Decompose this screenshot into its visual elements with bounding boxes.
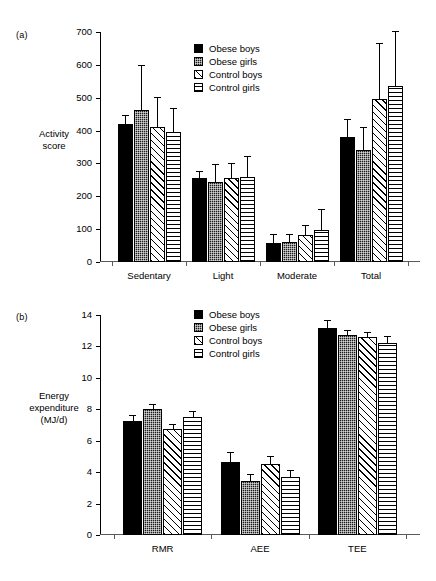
error-bar-cap — [247, 474, 254, 475]
error-bar-cap — [149, 404, 156, 405]
error-bar-stem — [367, 333, 368, 337]
bar-light-obese-boys — [192, 178, 207, 262]
panel-a-tag: (a) — [16, 30, 28, 40]
error-bar-stem — [173, 109, 174, 132]
error-bar-cap — [364, 332, 371, 333]
bar-total-obese-girls — [356, 150, 371, 262]
bar-sedentary-obese-girls — [134, 110, 149, 262]
x-category-label-total: Total — [321, 270, 421, 281]
error-bar-cap — [344, 119, 351, 120]
legend-item-obese-girls: Obese girls — [194, 321, 262, 333]
panel-b-tag: (b) — [16, 312, 28, 322]
y-tick — [96, 472, 100, 473]
bar-total-control-boys — [372, 99, 387, 262]
error-bar-cap — [227, 452, 234, 453]
diagonal-hatch-swatch-icon — [194, 336, 203, 345]
dense-dots-swatch-icon — [194, 323, 203, 332]
x-tick — [408, 262, 409, 266]
y-tick — [96, 229, 100, 230]
bar-moderate-obese-boys — [266, 243, 281, 262]
solid-black-swatch-icon — [194, 310, 203, 319]
error-bar-cap — [129, 415, 136, 416]
y-axis-title-line: (MJ/d) — [8, 414, 100, 426]
x-category-label-aee: AEE — [210, 543, 310, 554]
bar-light-obese-girls — [208, 182, 223, 262]
bar-rmr-control-girls — [183, 417, 202, 535]
legend-item-control-boys: Control boys — [194, 334, 262, 346]
bar-tee-control-boys — [358, 337, 377, 535]
error-bar-cap — [324, 320, 331, 321]
error-bar-cap — [267, 456, 274, 457]
x-tick — [186, 262, 187, 266]
y-tick-label: 6 — [52, 436, 92, 446]
error-bar-stem — [289, 235, 290, 242]
y-tick — [96, 504, 100, 505]
y-tick — [96, 409, 100, 410]
error-bar-cap — [360, 127, 367, 128]
y-tick — [96, 315, 100, 316]
y-tick — [96, 535, 100, 536]
error-bar-cap — [169, 424, 176, 425]
error-bar-cap — [318, 209, 325, 210]
error-bar-stem — [193, 412, 194, 418]
error-bar-stem — [141, 66, 142, 110]
y-tick — [96, 346, 100, 347]
legend-item-control-boys: Control boys — [194, 68, 262, 80]
bar-tee-obese-boys — [318, 328, 337, 535]
y-tick — [96, 378, 100, 379]
legend-item-label: Control girls — [209, 348, 260, 359]
horizontal-lines-swatch-icon — [194, 83, 203, 92]
bar-light-control-girls — [240, 177, 255, 262]
legend-item-obese-boys: Obese boys — [194, 42, 262, 54]
error-bar-stem — [395, 32, 396, 86]
error-bar-stem — [231, 164, 232, 178]
legend-item-label: Obese boys — [209, 43, 260, 54]
panel-a: (a) Activityscore 0100200300400500600700… — [0, 0, 436, 290]
y-tick — [96, 163, 100, 164]
x-tick — [309, 535, 310, 539]
error-bar-stem — [321, 210, 322, 230]
horizontal-lines-swatch-icon — [194, 349, 203, 358]
error-bar-cap — [344, 330, 351, 331]
legend-item-control-girls: Control girls — [194, 347, 262, 359]
y-tick — [96, 196, 100, 197]
panel-b: (b) Energyexpenditure(MJ/d) 02468101214R… — [0, 290, 436, 581]
error-bar-stem — [153, 405, 154, 409]
bar-rmr-control-boys — [163, 429, 182, 535]
error-bar-stem — [199, 172, 200, 179]
bar-sedentary-control-girls — [166, 132, 181, 262]
legend-item-label: Control boys — [209, 69, 262, 80]
error-bar-stem — [125, 116, 126, 124]
y-tick — [96, 32, 100, 33]
error-bar-stem — [157, 98, 158, 127]
y-tick — [96, 441, 100, 442]
bar-sedentary-obese-boys — [118, 124, 133, 262]
bar-rmr-obese-boys — [123, 421, 142, 535]
legend-item-label: Obese girls — [209, 56, 257, 67]
legend-item-label: Obese boys — [209, 309, 260, 320]
legend-item-label: Obese girls — [209, 322, 257, 333]
error-bar-stem — [387, 337, 388, 342]
solid-black-swatch-icon — [194, 44, 203, 53]
bar-total-control-girls — [388, 86, 403, 262]
y-tick-label: 0 — [52, 530, 92, 540]
y-tick — [96, 98, 100, 99]
bar-moderate-obese-girls — [282, 242, 297, 262]
error-bar-stem — [347, 120, 348, 137]
diagonal-hatch-swatch-icon — [194, 70, 203, 79]
figure-activity-and-energy: (a) Activityscore 0100200300400500600700… — [0, 0, 436, 581]
error-bar-stem — [173, 425, 174, 428]
legend-item-obese-boys: Obese boys — [194, 308, 262, 320]
legend-item-control-girls: Control girls — [194, 81, 262, 93]
error-bar-cap — [244, 156, 251, 157]
error-bar-stem — [363, 128, 364, 150]
y-tick-label: 14 — [52, 310, 92, 320]
error-bar-stem — [379, 44, 380, 99]
bar-light-control-boys — [224, 178, 239, 262]
error-bar-cap — [189, 411, 196, 412]
bar-moderate-control-boys — [298, 235, 313, 262]
y-tick-label: 700 — [52, 27, 92, 37]
x-tick — [112, 262, 113, 266]
x-tick — [334, 262, 335, 266]
y-tick-label: 100 — [52, 224, 92, 234]
